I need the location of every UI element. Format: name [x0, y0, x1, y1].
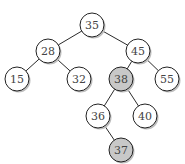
tree-node-40: 40 [133, 104, 159, 130]
node-label: 36 [91, 110, 105, 123]
node-label: 28 [41, 45, 55, 58]
tree-node-36: 36 [86, 104, 112, 130]
tree-node-38: 38 [109, 67, 135, 93]
node-label: 35 [85, 19, 99, 32]
tree-node-37: 37 [109, 138, 135, 164]
tree-diagram: 35284515323855364037 [0, 0, 185, 164]
tree-node-28: 28 [36, 39, 62, 65]
node-label: 32 [72, 73, 86, 86]
node-label: 38 [114, 73, 128, 86]
node-label: 15 [10, 73, 24, 86]
node-label: 45 [131, 45, 145, 58]
tree-node-55: 55 [155, 67, 181, 93]
tree-node-45: 45 [126, 39, 152, 65]
tree-node-35: 35 [80, 13, 106, 39]
node-label: 37 [114, 144, 128, 157]
node-label: 55 [160, 73, 174, 86]
tree-nodes: 35284515323855364037 [5, 13, 181, 164]
tree-node-32: 32 [67, 67, 93, 93]
node-label: 40 [138, 110, 152, 123]
